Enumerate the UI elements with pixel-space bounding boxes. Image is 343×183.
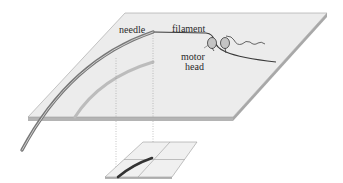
motor-head-label-line2: head [185,62,204,72]
diagram-canvas: needle filament motor head [0,0,343,183]
needle-label: needle [119,25,145,35]
top-plane-side [28,117,233,121]
filament-label: filament [172,24,205,34]
motor-head-2 [221,38,230,49]
motor-head-1 [208,38,217,49]
quadrant-detector [105,142,197,179]
